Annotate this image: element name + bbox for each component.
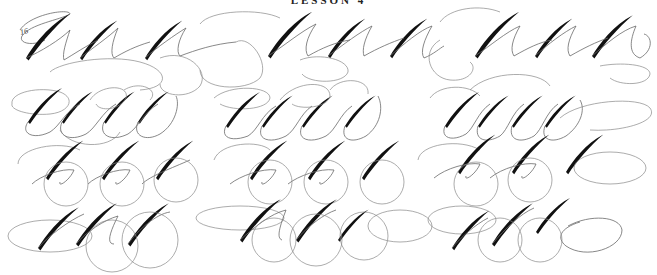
letter-group-a-3 xyxy=(429,8,650,84)
letter-group-c-3 xyxy=(418,135,646,206)
letter-group-e-3 xyxy=(430,74,652,140)
row-4-capitals xyxy=(8,198,622,272)
letter-group-4-2 xyxy=(196,199,432,266)
letter-group-4-1 xyxy=(8,203,178,272)
row-2-capital-e xyxy=(12,74,652,144)
row-3-capital-d xyxy=(18,135,646,206)
calligraphy-sheet xyxy=(0,0,657,275)
letter-group-e-1 xyxy=(12,86,178,145)
letter-group-a-2 xyxy=(200,12,444,87)
letter-group-4-3 xyxy=(428,198,622,262)
letter-group-e-2 xyxy=(214,81,381,140)
letter-group-d-1 xyxy=(18,141,198,206)
row-1-capital-a xyxy=(20,8,650,95)
letter-group-l-2 xyxy=(214,141,404,204)
letter-group-a-1 xyxy=(20,12,236,95)
